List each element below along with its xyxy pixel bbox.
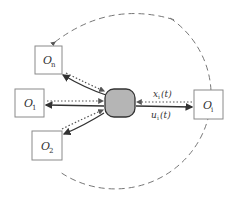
svg-text:i: i xyxy=(157,114,159,121)
label-state-x: x i (t) xyxy=(153,89,172,100)
svg-text:n: n xyxy=(51,61,56,69)
svg-text:(t): (t) xyxy=(161,89,172,99)
edge-center-O1 xyxy=(46,101,104,106)
dashed-arc-top xyxy=(55,14,175,42)
label-control-u: u i (t) xyxy=(151,110,171,121)
svg-text:2: 2 xyxy=(49,147,53,155)
node-O2: O 2 xyxy=(32,131,62,160)
svg-text:1: 1 xyxy=(32,104,36,112)
svg-text:i: i xyxy=(158,93,160,100)
node-On: O n xyxy=(35,46,62,74)
edge-center-On xyxy=(63,73,106,95)
node-Oi: O i xyxy=(194,90,223,119)
edge-center-O2 xyxy=(62,110,104,134)
edge-center-Oi xyxy=(136,102,192,107)
agent-network-diagram: O n O 1 O 2 O i x i (t) u i (t) xyxy=(0,0,236,204)
node-O1: O 1 xyxy=(15,89,44,117)
center-node xyxy=(105,89,135,117)
svg-text:(t): (t) xyxy=(160,110,171,120)
